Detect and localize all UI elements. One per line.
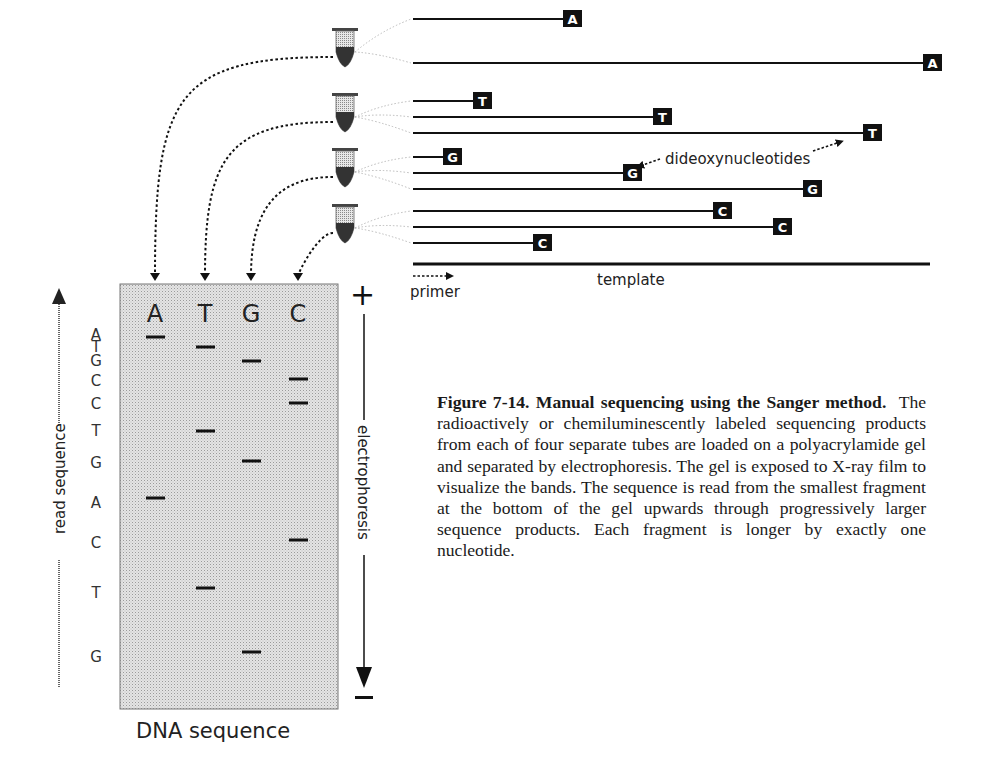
gel-band-g	[242, 651, 261, 654]
tube-link	[355, 170, 411, 173]
loading-arrow-a	[155, 57, 333, 276]
tube-c	[332, 204, 358, 243]
tube-contents	[336, 112, 354, 132]
minus-electrode	[355, 696, 373, 699]
dideoxynucleotides-label: dideoxynucleotides	[665, 150, 811, 168]
ddntp-tag-letter: T	[658, 110, 667, 125]
tube-link	[355, 228, 411, 243]
tube-contents	[336, 223, 354, 243]
gel-band-t	[196, 346, 215, 349]
electrophoresis-label: electrophoresis	[354, 425, 372, 540]
ddntp-tag-a: A	[923, 54, 942, 71]
caption-body: The radioactively or chemiluminescently …	[437, 392, 926, 560]
tube-link	[355, 101, 411, 117]
dna-sequence-label: DNA sequence	[136, 719, 290, 743]
loading-arrows	[150, 57, 333, 281]
loading-arrowhead	[200, 273, 210, 281]
gel-band-c	[289, 378, 308, 381]
gel-band-g	[242, 460, 261, 463]
tube-cap	[332, 148, 358, 151]
ddntp-tag-letter: C	[538, 236, 548, 251]
ddntp-tag-letter: C	[718, 204, 728, 219]
read-sequence-label: read sequence	[51, 423, 69, 534]
tube-link	[355, 225, 411, 228]
loading-arrow-c	[298, 233, 333, 276]
read-letter: T	[90, 422, 101, 440]
tubes	[332, 28, 358, 243]
read-letter: T	[90, 584, 101, 602]
gel-band-c	[289, 402, 308, 405]
read-letter: G	[90, 454, 102, 472]
ddntp-tag-t: T	[863, 124, 882, 141]
dideoxy-arrow-right	[813, 142, 840, 151]
gel-band-g	[242, 360, 261, 363]
read-sequence-arrowhead	[52, 288, 66, 304]
figure-caption: Figure 7-14. Manual sequencing using the…	[437, 392, 926, 562]
primer-label: primer	[410, 283, 461, 301]
ddntp-tag-letter: C	[778, 220, 788, 235]
read-letter: C	[91, 534, 101, 552]
tube-link	[355, 172, 411, 189]
ddntp-tag-letter: A	[927, 56, 937, 71]
ddntp-tag-t: T	[653, 108, 672, 125]
tube-link	[355, 115, 411, 117]
lane-label-g: G	[242, 300, 261, 328]
sanger-sequencing-diagram: AATTTGGGCCC template primer dideoxynucle…	[0, 0, 1006, 767]
lane-label-t: T	[197, 300, 213, 328]
gel-band-t	[196, 430, 215, 433]
read-letter: C	[91, 395, 101, 413]
tube-link	[355, 52, 411, 63]
read-letter: C	[91, 372, 101, 390]
tube-t	[332, 93, 358, 132]
ddntp-tag-a: A	[563, 10, 582, 27]
loading-arrowhead	[246, 273, 256, 281]
ddntp-tag-letter: G	[627, 166, 638, 181]
ddntp-tag-letter: A	[567, 12, 577, 27]
lane-label-c: C	[290, 300, 307, 328]
loading-arrowhead	[150, 273, 160, 281]
ddntp-tag-g: G	[803, 180, 822, 197]
tube-link	[355, 19, 411, 52]
ddntp-tag-c: C	[713, 202, 732, 219]
read-letter: A	[91, 494, 102, 512]
ddntp-tag-c: C	[533, 234, 552, 251]
read-letter: G	[90, 648, 102, 666]
tube-contents	[336, 47, 354, 67]
tube-cap	[332, 28, 358, 31]
tube-a	[332, 28, 358, 67]
electrophoresis-arrowhead	[356, 667, 372, 688]
plus-electrode: +	[350, 277, 375, 312]
tube-link	[355, 157, 411, 172]
template-label: template	[597, 271, 665, 289]
ddntp-tag-t: T	[473, 92, 492, 109]
dideoxy-arrow-left	[640, 159, 660, 166]
loading-arrowhead	[293, 273, 303, 281]
loading-arrow-t	[205, 122, 333, 276]
ddntp-tag-g: G	[443, 148, 462, 165]
fragments: AATTTGGGCCC	[355, 10, 942, 251]
read-sequence-letters: ATGCCTGACTG	[90, 326, 102, 666]
tube-contents	[336, 167, 354, 187]
tube-cap	[332, 93, 358, 96]
gel-band-a	[146, 336, 165, 339]
read-letter: G	[90, 352, 102, 370]
ddntp-tag-c: C	[773, 218, 792, 235]
gel-band-c	[289, 539, 308, 542]
ddntp-tag-letter: G	[447, 150, 458, 165]
ddntp-tag-letter: T	[478, 94, 487, 109]
gel-band-t	[196, 587, 215, 590]
gel-band-a	[146, 497, 165, 500]
caption-title: Figure 7-14. Manual sequencing using the…	[437, 392, 886, 412]
loading-arrow-g	[251, 177, 333, 276]
ddntp-tag-letter: T	[868, 126, 877, 141]
tube-link	[355, 117, 411, 133]
ddntp-tag-g: G	[623, 164, 642, 181]
tube-cap	[332, 204, 358, 207]
ddntp-tag-letter: G	[807, 182, 818, 197]
lane-label-a: A	[147, 300, 164, 328]
tube-g	[332, 148, 358, 187]
